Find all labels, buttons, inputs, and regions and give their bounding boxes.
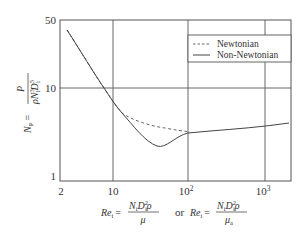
svg-text:NiD2iρ: NiD2iρ: [216, 199, 240, 212]
svg-text:Rei=: Rei=: [189, 207, 210, 219]
chart: 50 10 1 2 10 102 103 Newtonian Non-Newto…: [0, 0, 301, 234]
svg-text:NiD2iρ: NiD2iρ: [128, 199, 152, 212]
or-text: or: [175, 206, 185, 218]
x-axis-label-non-newtonian: Rei= NiD2iρ μa: [189, 199, 247, 226]
svg-text:NP=: NP=: [22, 114, 35, 134]
legend-label-newtonian: Newtonian: [217, 39, 259, 49]
x-axis-label-newtonian: Rei= NiD2iρ μ: [100, 199, 159, 225]
legend: Newtonian Non-Newtonian: [188, 35, 291, 62]
legend-label-non-newtonian: Non-Newtonian: [217, 50, 278, 60]
newtonian-curve: [67, 30, 190, 132]
svg-text:Rei=: Rei=: [100, 207, 121, 219]
svg-text:μa: μa: [224, 214, 233, 226]
y-tick-10: 10: [45, 82, 57, 94]
x-tick-10-2: 102: [179, 184, 194, 197]
x-tick-10: 10: [108, 185, 120, 197]
svg-text:P: P: [15, 86, 26, 93]
svg-text:ρN3iD5i: ρN3iD5i: [28, 80, 41, 105]
x-tick-10-3: 103: [256, 184, 271, 197]
svg-text:μ: μ: [139, 214, 145, 225]
x-tick-2: 2: [58, 185, 64, 197]
y-tick-1: 1: [51, 170, 57, 182]
y-axis-label: NP= P ρN3iD5i: [15, 73, 41, 134]
y-tick-50: 50: [45, 14, 57, 26]
